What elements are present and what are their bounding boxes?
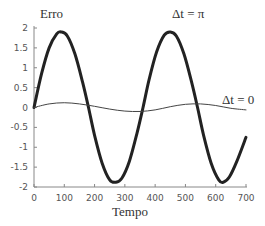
series-label-delta-pi: Δt = π	[172, 6, 205, 21]
series-label-delta-zero: Δt = 0	[222, 92, 254, 107]
x-axis-title: Tempo	[112, 204, 148, 219]
y-tick-label: -1.5	[10, 162, 28, 172]
x-tick-label: 300	[116, 193, 133, 203]
y-axis-title: Erro	[40, 6, 63, 21]
y-tick-label: 2	[22, 23, 28, 33]
y-tick-label: -1	[19, 142, 28, 152]
y-tick-label: 1	[22, 63, 28, 73]
y-tick-label: 1.5	[14, 43, 28, 53]
y-tick-label: -2	[19, 182, 28, 192]
x-axis: 0100200300400500600700	[31, 184, 255, 203]
error-vs-time-chart: 21.510.50-0.5-1-1.5-2 010020030040050060…	[0, 0, 265, 226]
x-tick-label: 600	[207, 193, 224, 203]
x-tick-label: 200	[86, 193, 103, 203]
y-tick-label: 0.5	[14, 83, 28, 93]
series-line-delta-zero	[34, 103, 246, 112]
x-tick-label: 0	[31, 193, 37, 203]
series-layer	[34, 32, 246, 183]
series-line-delta-pi	[34, 32, 246, 183]
x-tick-label: 700	[237, 193, 254, 203]
x-tick-label: 100	[56, 193, 73, 203]
x-tick-label: 500	[177, 193, 194, 203]
x-tick-label: 400	[147, 193, 164, 203]
y-tick-label: 0	[22, 103, 28, 113]
y-tick-label: -0.5	[10, 122, 28, 132]
